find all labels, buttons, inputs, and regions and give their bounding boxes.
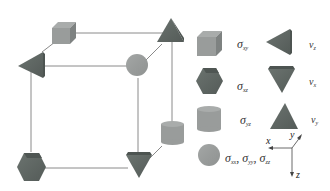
legend-triangle-up-icon (270, 103, 298, 129)
legend-label-v-z: vz (309, 40, 316, 51)
cylinder-node-sigma-yz (161, 121, 184, 145)
legend-label-sigma-xy: σxy (237, 38, 248, 51)
legend-circle-icon (198, 144, 220, 166)
cube-node-sigma-xy (52, 22, 76, 44)
legend-label-v-y: vy (311, 115, 318, 126)
hexagon-node-sigma-xz (17, 153, 46, 181)
legend-triangle-left-icon (266, 29, 292, 55)
cube-edges (31, 33, 172, 168)
triangle-up-node-v-y (157, 18, 184, 42)
legend-label-sigma-normal: σxx, σyy, σzz (225, 152, 270, 165)
legend-label-sigma-yz: σyz (240, 114, 251, 127)
cube-diagram-svg (0, 0, 330, 191)
axis-label-y: y (290, 130, 294, 140)
legend-hexagon-icon (196, 68, 223, 94)
legend-cube-icon (197, 31, 222, 56)
staggered-grid-diagram: σxy σxz σyz σxx, σyy, σzz vz vx vy x y z (0, 0, 330, 191)
legend-label-v-x: vx (309, 77, 316, 88)
axis-label-z: z (296, 170, 300, 180)
axis-label-x: x (266, 136, 270, 146)
legend-label-sigma-xz: σxz (237, 80, 248, 93)
triangle-down-node-v-x (126, 152, 152, 178)
circle-node-sigma-normal (126, 54, 148, 76)
legend-cylinder-icon (197, 106, 221, 132)
legend-triangle-down-icon (268, 66, 295, 93)
